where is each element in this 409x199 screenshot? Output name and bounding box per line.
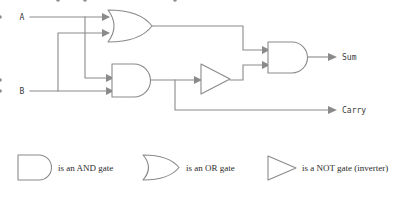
- legend-not-gate-icon: [268, 156, 296, 180]
- arrow-carry-output: [328, 106, 337, 114]
- arrow-or1-input-b: [102, 29, 110, 37]
- legend-or-gate-label: is an OR gate: [186, 163, 235, 173]
- junction-b-branch-y: [0, 89, 2, 93]
- legend-and-gate-icon: [18, 155, 52, 180]
- output-label-carry: Carry: [342, 106, 366, 115]
- gate-or-1[interactable]: [108, 10, 152, 42]
- gate-not-1[interactable]: [201, 64, 230, 94]
- junction-b-branch: [56, 0, 60, 2]
- arrow-sum-output: [328, 53, 337, 61]
- junction-carry-tap-y: [0, 78, 2, 82]
- legend-not-gate-label: is a NOT gate (inverter): [302, 163, 388, 173]
- wire-b-branch-to-or: [58, 33, 108, 91]
- logic-circuit-diagram: A B Sum Carry is an AND gate is an OR ga…: [0, 0, 409, 199]
- input-label-b: B: [20, 87, 25, 96]
- legend: is an AND gate is an OR gate is a NOT ga…: [18, 155, 388, 180]
- gate-and-2[interactable]: [268, 42, 308, 73]
- circuit-canvas: A B Sum Carry is an AND gate is an OR ga…: [0, 0, 409, 199]
- junction-a-branch-y: [0, 15, 2, 19]
- input-label-a: A: [20, 13, 25, 22]
- wire-or-output: [152, 26, 268, 50]
- junction-a-branch: [83, 0, 87, 2]
- arrow-or1-input-a: [102, 13, 110, 21]
- output-label-sum: Sum: [342, 53, 357, 62]
- output-arrow-layer: [328, 53, 337, 114]
- legend-or-gate-icon: [143, 155, 179, 180]
- wire-a-branch-to-and: [85, 17, 112, 78]
- wire-carry-branch: [175, 80, 330, 110]
- gate-and-1[interactable]: [112, 64, 151, 97]
- legend-and-gate-label: is an AND gate: [58, 163, 113, 173]
- junction-carry-tap: [173, 0, 177, 2]
